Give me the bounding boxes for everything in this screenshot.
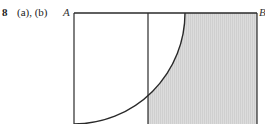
shaded-region <box>148 13 257 124</box>
corner-label-a: A <box>63 6 70 18</box>
figure-number: 8 <box>2 6 8 18</box>
figure-parts: (a), (b) <box>17 6 48 18</box>
geometry-figure <box>0 0 265 124</box>
corner-label-b: B <box>259 6 265 18</box>
